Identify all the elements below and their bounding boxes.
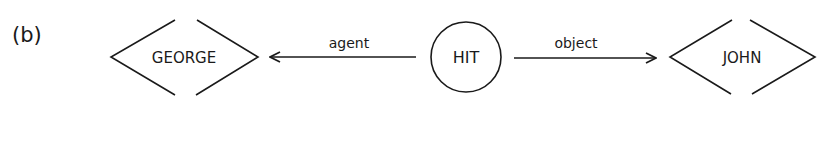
george-label: GEORGE xyxy=(152,49,216,67)
john-label: JOHN xyxy=(722,49,762,67)
hit-label: HIT xyxy=(453,48,480,67)
hit-node: HIT xyxy=(431,22,501,92)
george-node: GEORGE xyxy=(111,20,258,95)
panel-label: (b) xyxy=(12,23,42,47)
semantic-network-diagram: (b) GEORGE agent HIT object JOHN xyxy=(0,0,826,151)
agent-edge-label: agent xyxy=(329,35,370,51)
agent-edge: agent xyxy=(270,35,416,57)
object-edge-label: object xyxy=(554,35,598,51)
john-node: JOHN xyxy=(670,20,815,94)
object-edge: object xyxy=(514,35,656,58)
